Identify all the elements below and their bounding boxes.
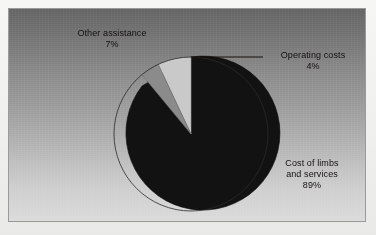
label-operating-costs: Operating costs 4% [266, 50, 360, 72]
pie-chart-screenshot: Other assistance 7% Operating costs 4% C… [0, 0, 376, 235]
label-other-assistance-value: 7% [64, 39, 160, 50]
label-other-assistance-text: Other assistance [77, 28, 146, 38]
label-operating-costs-value: 4% [266, 61, 360, 72]
label-cost-of-limbs-line1: Cost of limbs [285, 158, 338, 168]
label-cost-of-limbs-line2: and services [262, 169, 362, 180]
label-other-assistance: Other assistance 7% [64, 28, 160, 50]
label-cost-of-limbs: Cost of limbs and services 89% [262, 158, 362, 191]
label-cost-of-limbs-value: 89% [262, 180, 362, 191]
label-operating-costs-text: Operating costs [281, 50, 346, 60]
